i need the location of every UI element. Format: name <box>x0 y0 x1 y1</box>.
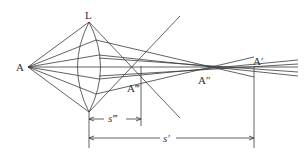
label-A-prime: A′ <box>253 55 263 67</box>
label-A: A <box>16 61 24 73</box>
label-s-prime: s′ <box>163 132 170 144</box>
optics-diagram: A L A‴ A″ A′ s‴ s′ <box>0 0 308 160</box>
label-L: L <box>85 9 92 21</box>
label-s-triple-prime: s‴ <box>108 112 118 124</box>
label-A-double-prime: A″ <box>198 74 211 86</box>
incident-rays <box>28 22 100 112</box>
refracted-rays <box>89 16 298 118</box>
label-A-triple-prime: A‴ <box>127 82 140 94</box>
